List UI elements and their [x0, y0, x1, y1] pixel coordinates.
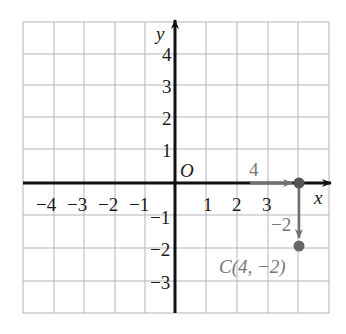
y-tick-label: −3 — [150, 272, 170, 293]
x-tick-label: −1 — [129, 194, 149, 215]
x-tick-label: −2 — [98, 194, 118, 215]
x-tick-label: −3 — [67, 194, 87, 215]
y-axis-label: y — [154, 23, 165, 44]
x-tick-label: 2 — [232, 194, 242, 215]
y-tick-label: −2 — [150, 239, 170, 260]
x-tick-label: 1 — [203, 194, 213, 215]
vertical-translation-label: −2 — [271, 214, 291, 235]
y-tick-label: 2 — [162, 108, 172, 129]
x-axis-label: x — [313, 187, 323, 208]
y-tick-label: 3 — [162, 76, 172, 97]
y-tick-label: 4 — [162, 44, 172, 65]
start-point — [294, 178, 305, 189]
origin-label: O — [180, 160, 194, 181]
y-tick-label: 1 — [162, 140, 172, 161]
point-c — [294, 241, 305, 252]
x-tick-label: 3 — [262, 194, 272, 215]
y-tick-label: −1 — [150, 207, 170, 228]
x-tick-label: −4 — [36, 194, 57, 215]
point-c-label: C(4, −2) — [219, 256, 286, 278]
coordinate-plane: y x O 4 3 2 1 −1 −2 −3 −4 −3 −2 −1 1 2 3… — [0, 0, 346, 334]
horizontal-translation-label: 4 — [249, 159, 259, 180]
